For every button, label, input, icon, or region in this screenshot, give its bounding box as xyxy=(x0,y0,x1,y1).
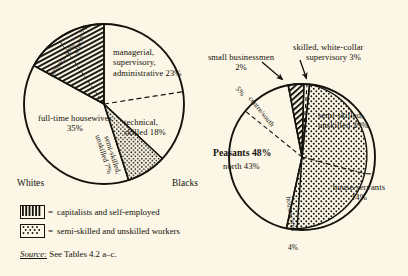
whites-label-managerial: managerial, supervisory, administrative … xyxy=(113,47,182,78)
whites-label-technical: technical, skilled 18% xyxy=(124,117,166,138)
whites-label-housewives: full-time housewives 35% xyxy=(20,113,130,134)
blacks-label-small-businessmen: small businessmen 2% xyxy=(185,52,297,73)
legend-item-semiskilled: = semi-skilled and unskilled workers xyxy=(20,224,180,238)
blacks-label-house-servants: house-servants 14% xyxy=(320,182,398,203)
legend-swatch-dots xyxy=(20,224,45,238)
blacks-label-skilled-line1: skilled, white-collar xyxy=(293,42,364,52)
blacks-label-semiskilled-line2: unskilled 29% xyxy=(318,120,369,130)
blacks-label-skilled-line2: supervisory 3% xyxy=(293,52,364,62)
blacks-label-housewives-pct: 4% xyxy=(288,243,298,253)
legend-label-capitalists: capitalists and self-employed xyxy=(57,207,160,217)
blacks-label-small-businessmen-line1: small businessmen xyxy=(185,52,297,62)
blacks-label-house-servants-line2: 14% xyxy=(320,192,398,202)
source-prefix: Source: xyxy=(20,249,47,259)
blacks-label-small-businessmen-line2: 2% xyxy=(185,62,297,72)
legend-swatch-hatch xyxy=(20,205,45,219)
blacks-label-skilled-whitecollar: skilled, white-collar supervisory 3% xyxy=(293,42,364,63)
whites-label-technical-line1: technical, xyxy=(124,117,166,127)
blacks-label-house-servants-line1: house-servants xyxy=(320,182,398,192)
legend-equals-2: = xyxy=(48,226,53,236)
blacks-label-peasants-north: north 43% xyxy=(223,161,260,171)
legend-equals-1: = xyxy=(48,207,53,217)
whites-wedge-capitalists xyxy=(34,24,104,104)
legend-label-semiskilled: semi-skilled and unskilled workers xyxy=(57,226,180,236)
blacks-label-semiskilled-line1: semi-skilled, xyxy=(318,110,369,120)
whites-label-housewives-line2: 35% xyxy=(20,123,130,133)
source-line: Source: See Tables 4.2 a–c. xyxy=(20,249,117,259)
whites-group-label: Whites xyxy=(17,178,44,188)
whites-label-managerial-line2: supervisory, xyxy=(113,57,182,67)
whites-label-managerial-line1: managerial, xyxy=(113,47,182,57)
blacks-group-label: Blacks xyxy=(172,178,198,188)
whites-label-managerial-line3: administrative 23% xyxy=(113,68,182,78)
legend-item-capitalists: = capitalists and self-employed xyxy=(20,205,160,219)
whites-label-housewives-line1: full-time housewives xyxy=(20,113,130,123)
blacks-label-peasants-total: Peasants 48% xyxy=(213,148,271,158)
whites-divider-managerial-technical xyxy=(104,92,184,104)
figure-container: managerial, supervisory, administrative … xyxy=(0,0,408,276)
blacks-label-semiskilled: semi-skilled, unskilled 29% xyxy=(318,110,369,131)
source-text: See Tables 4.2 a–c. xyxy=(49,249,116,259)
whites-label-technical-line2: skilled 18% xyxy=(124,127,166,137)
